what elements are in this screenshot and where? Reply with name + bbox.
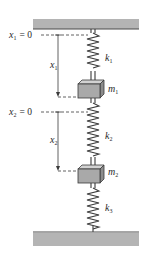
top-wall [33,19,139,29]
label-x1-zero: x1= 0 [8,29,32,41]
label-x1: x1 [49,59,57,71]
displacement-arrow-x2 [55,112,78,171]
label-x2: x2 [49,134,57,146]
bottom-wall [33,232,139,246]
spring-k1 [87,29,99,80]
label-m1: m1 [108,83,118,95]
label-m2: m2 [108,166,118,178]
label-k1: k1 [105,52,112,64]
label-k3: k3 [105,202,112,214]
displacement-arrow-x1 [55,35,78,97]
spring-k3 [87,183,99,232]
spring-mass-diagram: x1= 0 x1 k1 m1 x2= 0 x2 k2 m2 k3 [0,0,147,260]
spring-k2 [87,98,99,165]
arrowhead-x1 [56,92,60,97]
mass-m1 [78,80,104,98]
label-x2-zero: x2= 0 [8,106,32,118]
arrowhead-x2 [56,166,60,171]
mass-m2 [78,165,104,183]
label-k2: k2 [105,130,112,142]
